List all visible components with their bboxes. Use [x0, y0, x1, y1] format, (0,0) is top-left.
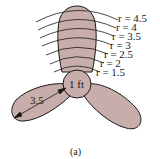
radius-labels: r = 4.5 r = 4 r = 3.5 r = 3 r = 2.5 r = … [96, 12, 148, 78]
blade-length-label: 3.5 [30, 94, 44, 106]
figure-caption: (a) [70, 146, 81, 158]
hub-label: 1 ft [69, 78, 84, 90]
propeller-diagram: 1 ft 3.5 r = 4.5 r = 4 r = 3.5 r = 3 r =… [0, 0, 160, 159]
right-blade [84, 84, 141, 129]
radius-label: r = 1.5 [96, 66, 126, 78]
